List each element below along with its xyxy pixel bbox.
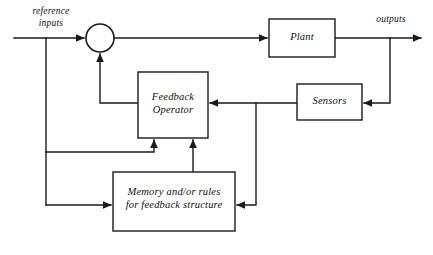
wire-output-to-sensors bbox=[364, 38, 390, 103]
io-label-outputs: outputs bbox=[361, 14, 421, 26]
block-diagram-figure: Plant Sensors Feedback Operator Memory a… bbox=[0, 0, 433, 255]
block-label-sensors: Sensors bbox=[297, 95, 362, 108]
block-label-plant: Plant bbox=[269, 31, 335, 44]
wire-feedback-operator-to-sum bbox=[100, 54, 138, 103]
diagram-canvas bbox=[0, 0, 433, 255]
block-label-memory: Memory and/or rules for feedback structu… bbox=[113, 186, 235, 212]
block-label-feedback-operator: Feedback Operator bbox=[138, 91, 208, 117]
wire-sensors-to-memory bbox=[237, 103, 256, 205]
summing-junction bbox=[86, 24, 114, 52]
wire-reference-to-feedback-operator bbox=[46, 140, 154, 152]
io-label-reference-inputs: reference inputs bbox=[12, 6, 90, 29]
